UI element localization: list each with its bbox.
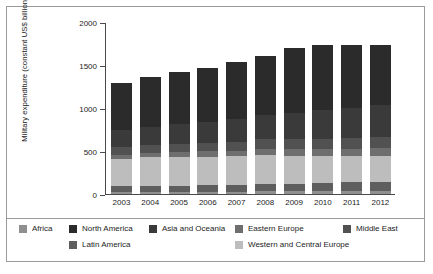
legend-label: Africa (32, 225, 52, 233)
bar-stack (111, 83, 132, 194)
legend-swatch-icon (69, 241, 77, 249)
bar-segment (197, 68, 218, 122)
x-tick-label: 2008 (256, 198, 274, 207)
bar-segment (312, 149, 333, 156)
bar-segment (255, 184, 276, 191)
bar-column[interactable]: 2011 (341, 23, 362, 194)
chart-legend: AfricaNorth AmericaAsia and OceaniaEaste… (7, 218, 424, 261)
bar-column[interactable]: 2009 (284, 23, 305, 194)
y-axis-label: Military expenditure (constant US$ billi… (20, 0, 29, 150)
bar-segment (370, 148, 391, 156)
bar-segment (341, 149, 362, 156)
bar-segment (255, 139, 276, 148)
bar-column[interactable]: 2003 (111, 23, 132, 194)
bar-segment (370, 137, 391, 148)
bar-segment (312, 45, 333, 110)
bar-segment (111, 159, 132, 187)
bar-column[interactable]: 2010 (312, 23, 333, 194)
legend-swatch-icon (235, 241, 243, 249)
bar-column[interactable]: 2004 (140, 23, 161, 194)
bar-segment (197, 122, 218, 143)
bar-segment (370, 191, 391, 194)
bar-segment (197, 185, 218, 192)
bar-segment (370, 105, 391, 137)
bar-segment (255, 56, 276, 115)
bar-column[interactable]: 2012 (370, 23, 391, 194)
x-tick-label: 2011 (343, 198, 360, 207)
bar-segment (255, 191, 276, 194)
bar-segment (140, 77, 161, 127)
bar-segment (197, 192, 218, 194)
legend-item[interactable]: North America (69, 225, 133, 233)
bar-column[interactable]: 2008 (255, 23, 276, 194)
bar-column[interactable]: 2005 (169, 23, 190, 194)
bar-segment (284, 191, 305, 194)
bar-column[interactable]: 2007 (226, 23, 247, 194)
bar-segment (226, 156, 247, 184)
y-tick (100, 23, 105, 24)
y-tick-label: 1500 (79, 62, 97, 71)
legend-item[interactable]: Western and Central Europe (235, 241, 349, 249)
bar-segment (341, 191, 362, 194)
bar-stack (140, 77, 161, 194)
bar-segment (226, 185, 247, 192)
y-tick-label: 0 (93, 191, 97, 200)
bar-stack (284, 48, 305, 194)
bar-segment (169, 157, 190, 185)
y-tick (100, 152, 105, 153)
x-tick-label: 2005 (170, 198, 188, 207)
legend-row-2: Latin AmericaWestern and Central Europe (7, 241, 424, 257)
bar-segment (341, 182, 362, 190)
bar-segment (312, 110, 333, 138)
bar-segment (140, 145, 161, 153)
y-tick (100, 195, 105, 196)
legend-swatch-icon (69, 225, 77, 233)
bar-segment (111, 130, 132, 148)
bar-segment (226, 192, 247, 194)
bar-segment (284, 113, 305, 140)
legend-item[interactable]: Middle East (343, 225, 398, 233)
legend-swatch-icon (19, 225, 27, 233)
y-tick-label: 2000 (79, 19, 97, 28)
bar-segment (255, 155, 276, 184)
bar-segment (111, 147, 132, 154)
bar-segment (370, 182, 391, 191)
bar-segment (226, 62, 247, 118)
bar-segment (312, 156, 333, 183)
legend-item[interactable]: Eastern Europe (235, 225, 304, 233)
legend-item[interactable]: Asia and Oceania (149, 225, 225, 233)
legend-item[interactable]: Africa (19, 225, 52, 233)
bar-segment (284, 48, 305, 113)
bar-segment (197, 143, 218, 152)
legend-label: North America (82, 225, 133, 233)
x-axis-line (105, 194, 395, 195)
bar-segment (284, 139, 305, 149)
x-tick-label: 2012 (371, 198, 389, 207)
bar-segment (140, 192, 161, 194)
axes: 0500100015002000 20032004200520062007200… (105, 23, 395, 195)
bar-segment (284, 156, 305, 184)
bar-segment (169, 124, 190, 144)
y-tick (100, 66, 105, 67)
plot-area: Military expenditure (constant US$ billi… (7, 7, 424, 219)
x-tick-label: 2007 (228, 198, 246, 207)
legend-row-1: AfricaNorth AmericaAsia and OceaniaEaste… (7, 225, 424, 241)
legend-item[interactable]: Latin America (69, 241, 130, 249)
bar-stack (169, 72, 190, 194)
bar-segment (341, 156, 362, 182)
legend-label: Eastern Europe (248, 225, 304, 233)
bar-column[interactable]: 2006 (197, 23, 218, 194)
legend-label: Latin America (82, 241, 130, 249)
bar-stack (341, 45, 362, 194)
x-tick-label: 2009 (285, 198, 303, 207)
bar-segment (370, 45, 391, 105)
bar-segment (169, 144, 190, 152)
bar-stack (255, 56, 276, 194)
chart-figure: Military expenditure (constant US$ billi… (6, 6, 425, 262)
legend-label: Middle East (356, 225, 398, 233)
legend-swatch-icon (235, 225, 243, 233)
y-tick-label: 1000 (79, 105, 97, 114)
bar-segment (197, 157, 218, 185)
legend-label: Asia and Oceania (162, 225, 225, 233)
bar-segment (341, 138, 362, 149)
